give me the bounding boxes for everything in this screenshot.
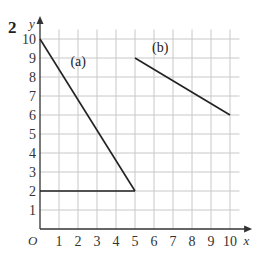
y-tick-label: 8 — [29, 70, 36, 85]
x-tick-label: 7 — [170, 234, 177, 249]
line-chart: 1234567891012345678910Oxy(a)(b) — [0, 0, 262, 259]
y-tick-label: 2 — [29, 184, 36, 199]
y-tick-label: 1 — [29, 203, 36, 218]
y-tick-label: 10 — [22, 32, 36, 47]
origin-label: O — [28, 233, 38, 248]
line-segment — [135, 58, 230, 115]
x-tick-label: 4 — [113, 234, 120, 249]
segment-label: (a) — [70, 54, 86, 70]
y-tick-label: 3 — [29, 165, 36, 180]
y-tick-label: 4 — [29, 146, 36, 161]
y-tick-label: 9 — [29, 51, 36, 66]
x-tick-label: 8 — [189, 234, 196, 249]
y-tick-label: 7 — [29, 89, 36, 104]
y-axis-arrow-icon — [37, 16, 44, 24]
x-tick-label: 6 — [151, 234, 158, 249]
x-tick-label: 5 — [132, 234, 139, 249]
x-tick-label: 10 — [223, 234, 237, 249]
x-tick-label: 3 — [94, 234, 101, 249]
x-tick-label: 1 — [56, 234, 63, 249]
segment-label: (b) — [152, 40, 169, 56]
x-axis-arrow-icon — [244, 226, 252, 233]
y-tick-label: 6 — [29, 108, 36, 123]
x-tick-label: 2 — [75, 234, 82, 249]
x-tick-label: 9 — [208, 234, 215, 249]
y-tick-label: 5 — [29, 127, 36, 142]
y-axis-label: y — [27, 16, 35, 31]
x-axis-label: x — [242, 233, 249, 248]
